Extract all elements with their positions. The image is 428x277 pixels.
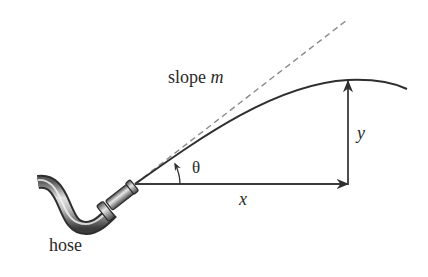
theta-label: θ	[192, 159, 200, 176]
trajectory-curve	[135, 80, 407, 184]
hose-label: hose	[49, 236, 82, 254]
x-label: x	[239, 190, 247, 208]
slope-text: slope	[168, 67, 206, 87]
slope-variable: m	[211, 67, 224, 87]
tangent-line	[135, 20, 347, 184]
slope-label: slope m	[168, 68, 224, 86]
theta-arc-icon	[175, 164, 180, 184]
hose-icon	[38, 180, 139, 228]
y-label: y	[357, 124, 365, 142]
hose-trajectory-diagram: slope m θ x y hose	[0, 0, 428, 277]
